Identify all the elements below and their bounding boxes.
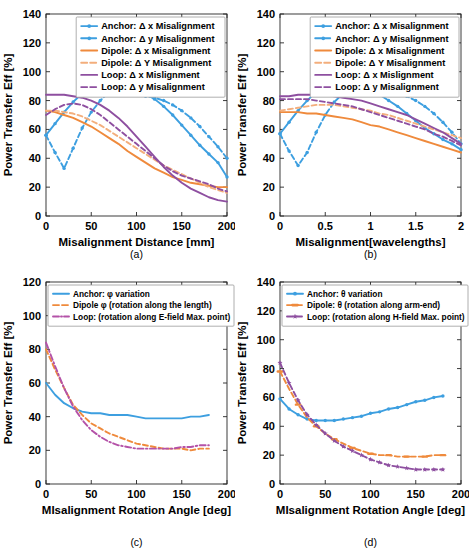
chart-d: 020406080100120140050100150200Power Tran… (234, 268, 469, 556)
series-marker (459, 148, 462, 151)
y-tick-label: 60 (29, 377, 41, 389)
series-marker (360, 414, 363, 417)
x-tick-label: 150 (173, 220, 191, 232)
x-tick-label: 0 (43, 488, 49, 500)
series-marker (395, 464, 400, 469)
series-marker (441, 394, 444, 397)
legend-label: Anchor: Δ y Misalignment (335, 34, 448, 44)
series-marker (351, 416, 354, 419)
y-tick-label: 40 (263, 152, 275, 164)
series-marker (162, 99, 165, 102)
series-marker (315, 131, 318, 134)
series-marker (287, 407, 290, 410)
legend-marker (87, 24, 91, 28)
panel-label: (d) (364, 536, 377, 548)
y-tick-label: 140 (257, 8, 275, 20)
series-marker (450, 131, 453, 134)
series-marker (441, 138, 444, 141)
y-tick-label: 0 (269, 478, 275, 490)
x-tick-label: 2 (458, 220, 464, 232)
series-marker (189, 116, 192, 119)
series-marker (171, 103, 174, 106)
panel-label: (b) (364, 248, 377, 260)
legend-label: Anchor: θ variation (307, 289, 382, 299)
series-marker (440, 467, 445, 472)
series-marker (396, 105, 399, 108)
y-axis-label: Power Transfer Eff [%] (2, 321, 14, 444)
series-marker (414, 99, 417, 102)
series-marker (198, 125, 201, 128)
chart-a: 020406080100120140050100150200Power Tran… (0, 0, 235, 268)
y-tick-label: 140 (23, 8, 41, 20)
series-marker (216, 161, 219, 164)
legend-label: Loop: Δ x Mislignment (101, 70, 199, 80)
series-marker (432, 112, 435, 115)
subplot-b: 02040608010012014000.511.52Power Transfe… (234, 0, 469, 268)
series-marker (422, 467, 427, 472)
y-tick-label: 20 (263, 449, 275, 461)
legend-label: Anchor: Δ x Misalignment (101, 21, 214, 31)
series-marker (342, 417, 345, 420)
y-tick-label: 80 (263, 95, 275, 107)
series-marker (431, 467, 436, 472)
series-marker (207, 152, 210, 155)
y-tick-label: 40 (263, 420, 275, 432)
legend-label: Dipole: Δ Y Misalignment (335, 58, 445, 68)
legend-label: Anchor: φ variation (73, 289, 150, 299)
series-marker (296, 413, 299, 416)
series-marker (378, 410, 381, 413)
series-marker (405, 403, 408, 406)
x-tick-label: 200 (452, 488, 469, 500)
subplot-d: 020406080100120140050100150200Power Tran… (234, 268, 469, 556)
series-marker (404, 466, 409, 471)
y-tick-label: 60 (263, 123, 275, 135)
y-tick-label: 40 (29, 411, 41, 423)
y-tick-label: 120 (23, 276, 41, 288)
series-marker (387, 407, 390, 410)
y-tick-label: 140 (257, 276, 275, 288)
series-marker (278, 397, 281, 400)
x-tick-label: 100 (127, 488, 145, 500)
legend-marker (87, 36, 91, 40)
x-tick-label: 100 (361, 488, 379, 500)
series-marker (198, 144, 201, 147)
series-marker (441, 121, 444, 124)
x-tick-label: 200 (218, 488, 235, 500)
series-marker (44, 134, 47, 137)
series-marker (71, 146, 74, 149)
chart-b: 02040608010012014000.511.52Power Transfe… (234, 0, 469, 268)
x-tick-label: 0 (43, 220, 49, 232)
y-tick-label: 80 (29, 343, 41, 355)
series-marker (278, 132, 281, 135)
series-marker (287, 149, 290, 152)
series-marker (387, 99, 390, 102)
y-tick-label: 100 (23, 310, 41, 322)
y-tick-label: 100 (257, 334, 275, 346)
x-axis-label: Misalignment Distance [mm] (59, 236, 215, 248)
legend-marker (321, 24, 325, 28)
series-marker (305, 151, 308, 154)
figure-container: 020406080100120140050100150200Power Tran… (0, 0, 469, 556)
y-axis-label: Power Transfer Eff [%] (236, 53, 248, 176)
legend-label: Loop: Δ y Misalignment (101, 82, 205, 92)
subplot-c: 020406080100120050100150200Power Transfe… (0, 268, 235, 556)
x-tick-label: 150 (407, 488, 425, 500)
series-marker (413, 467, 418, 472)
legend-label: Loop: Δ y Misalignment (335, 82, 439, 92)
series-marker (225, 157, 228, 160)
legend-label: Anchor: Δ y Misalignment (101, 34, 214, 44)
y-tick-label: 80 (263, 363, 275, 375)
x-axis-label: Misalignment[wavelengths] (295, 236, 445, 248)
legend-label: Loop: (rotation along H-field Max. point… (307, 312, 465, 322)
series-marker (369, 412, 372, 415)
series-marker (225, 175, 228, 178)
series-marker (333, 419, 336, 422)
series-marker (162, 105, 165, 108)
y-tick-label: 120 (257, 305, 275, 317)
x-tick-label: 100 (127, 220, 145, 232)
series-marker (423, 399, 426, 402)
legend-label: Dipole: Δ x Misalignment (101, 46, 210, 56)
y-tick-label: 20 (29, 444, 41, 456)
series-marker (414, 400, 417, 403)
x-tick-label: 150 (173, 488, 191, 500)
